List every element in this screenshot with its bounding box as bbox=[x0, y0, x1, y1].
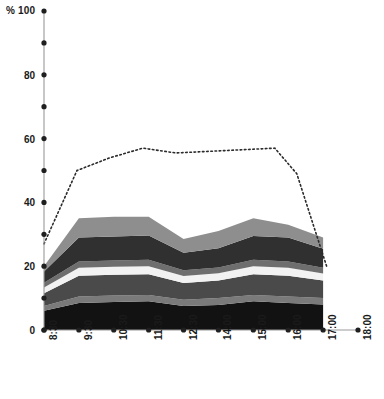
x-tick-dot bbox=[216, 327, 221, 332]
x-tick-label-17-00: 17:00 bbox=[327, 314, 338, 340]
stacked-area-series bbox=[44, 217, 323, 330]
y-tick-dot bbox=[41, 296, 46, 301]
x-tick-dot bbox=[251, 327, 256, 332]
x-tick-label-8-30: 8:30 bbox=[48, 320, 59, 340]
x-tick-label-10-30: 10:30 bbox=[118, 314, 129, 340]
y-tick-dot bbox=[41, 104, 46, 109]
x-tick-label-14-00: 14:00 bbox=[222, 314, 233, 340]
x-tick-dot bbox=[181, 327, 186, 332]
x-tick-dot bbox=[355, 327, 360, 332]
x-tick-label-11-30: 11:30 bbox=[153, 315, 164, 340]
y-tick-dot bbox=[41, 72, 46, 77]
x-tick-label-18-00: 18:00 bbox=[362, 314, 373, 340]
y-axis-unit-label: % 100 bbox=[6, 5, 35, 16]
x-tick-label-15-00: 15:00 bbox=[257, 314, 268, 340]
x-tick-dot bbox=[111, 327, 116, 332]
area-chart: % 100 020406080 8:309:3010:3011:3012:301… bbox=[0, 0, 384, 399]
y-tick-label-60: 60 bbox=[0, 133, 35, 144]
x-tick-dot bbox=[321, 327, 326, 332]
y-tick-dot bbox=[41, 200, 46, 205]
y-tick-dot bbox=[41, 232, 46, 237]
x-tick-dot bbox=[76, 327, 81, 332]
x-tick-dot bbox=[286, 327, 291, 332]
x-tick-label-16-00: 16:00 bbox=[292, 314, 303, 340]
x-tick-label-12-30: 12:30 bbox=[188, 314, 199, 340]
x-tick-label-9-30: 9:30 bbox=[83, 320, 94, 340]
y-tick-dot bbox=[41, 8, 46, 13]
y-tick-label-20: 20 bbox=[0, 261, 35, 272]
y-tick-dot bbox=[41, 40, 46, 45]
y-tick-label-80: 80 bbox=[0, 69, 35, 80]
y-tick-label-40: 40 bbox=[0, 197, 35, 208]
y-tick-dot bbox=[41, 168, 46, 173]
y-tick-dot bbox=[41, 264, 46, 269]
y-tick-dot bbox=[41, 136, 46, 141]
x-tick-dot bbox=[41, 327, 46, 332]
y-tick-label-0: 0 bbox=[0, 325, 35, 336]
x-tick-dot bbox=[146, 327, 151, 332]
